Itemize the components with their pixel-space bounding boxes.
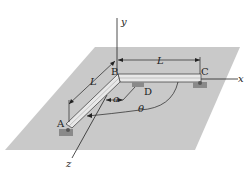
y-axis-label: y (121, 17, 127, 27)
dimension-a: a (113, 94, 119, 104)
angle-theta: θ (138, 104, 144, 114)
dimension-l-top: L (157, 56, 164, 66)
point-c-label: C (201, 67, 209, 77)
ground-plane (5, 47, 240, 150)
support-a (59, 129, 73, 136)
point-a-label: A (57, 119, 64, 129)
point-d-label: D (144, 87, 152, 97)
support-d (132, 82, 144, 87)
point-b-label: B (111, 67, 118, 77)
dimension-l-left: L (90, 77, 97, 87)
x-axis-label: x (238, 74, 244, 84)
z-axis-label: z (66, 159, 71, 169)
